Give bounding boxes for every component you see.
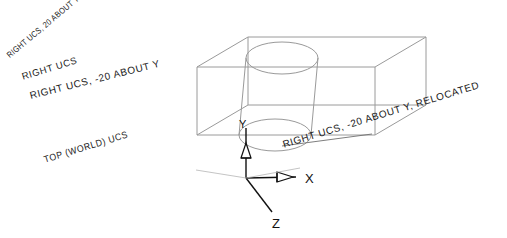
box-wireframe <box>197 37 426 135</box>
ucs-x-axis-label: X <box>305 171 314 186</box>
ucs-z-axis-label: Z <box>272 216 280 231</box>
box-back-face <box>248 37 426 105</box>
ucs-ref-line-left <box>196 170 246 178</box>
ucs-x-arrowhead <box>277 172 293 182</box>
box-edge-top-left <box>197 37 248 67</box>
cylinder-silhouette-right <box>311 58 318 135</box>
ucs-y-arrowhead <box>241 143 251 158</box>
cylinder-top-ellipse <box>246 42 318 74</box>
cad-illustration-canvas: RIGHT UCS, 20 ABOUT Y RIGHT UCS RIGHT UC… <box>0 0 507 238</box>
ucs-y-axis-label: Y <box>239 118 246 130</box>
ucs-z-axis-line <box>246 178 272 212</box>
box-edge-top-right <box>375 37 426 67</box>
wireframe-drawing <box>0 0 507 238</box>
